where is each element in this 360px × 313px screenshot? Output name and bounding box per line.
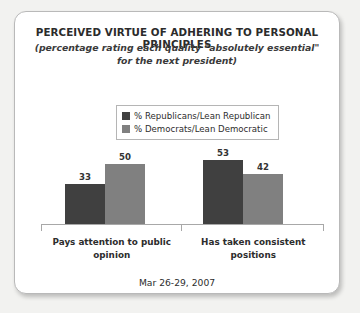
bar-democrats-0 [105,164,145,224]
survey-date-footnote: Mar 26-29, 2007 [15,277,339,288]
bar-wrap-republicans-1: 53 [203,160,243,224]
x-axis [41,224,324,231]
bar-group-consistent-positions: 53 42 [203,152,283,224]
bar-wrap-democrats-0: 50 [105,164,145,224]
bar-value-democrats-0: 50 [105,152,145,164]
legend-label-democrats: % Democrats/Lean Democratic [134,124,268,134]
legend-item-democrats: % Democrats/Lean Democratic [122,122,271,135]
bar-value-republicans-1: 53 [203,148,243,160]
bar-republicans-1 [203,160,243,224]
plot-area: 33 50 53 42 [41,152,315,224]
bar-wrap-republicans-0: 33 [65,184,105,224]
bar-republicans-0 [65,184,105,224]
chart-subtitle-line-1: (percentage rating each quality "absolut… [15,42,339,55]
legend-swatch-republicans [122,112,130,120]
legend-item-republicans: % Republicans/Lean Republican [122,109,271,122]
chart-panel: PERCEIVED VIRTUE OF ADHERING TO PERSONAL… [14,11,340,294]
bar-group-public-opinion: 33 50 [65,152,145,224]
bar-value-republicans-0: 33 [65,172,105,184]
category-label-1: Has taken consistent positions [183,236,325,261]
legend-swatch-democrats [122,125,130,133]
bar-democrats-1 [243,174,283,224]
bar-value-democrats-1: 42 [243,162,283,174]
axis-tick-left [41,225,42,231]
category-label-0: Pays attention to public opinion [41,236,183,261]
legend-label-republicans: % Republicans/Lean Republican [134,111,271,121]
bar-wrap-democrats-1: 42 [243,174,283,224]
axis-tick-middle [181,225,182,231]
category-labels: Pays attention to public opinion Has tak… [41,236,324,261]
chart-legend: % Republicans/Lean Republican % Democrat… [116,105,279,140]
chart-subtitle-line-2: for the next president) [15,55,339,68]
chart-subtitle: (percentage rating each quality "absolut… [15,42,339,67]
axis-tick-right [323,225,324,231]
